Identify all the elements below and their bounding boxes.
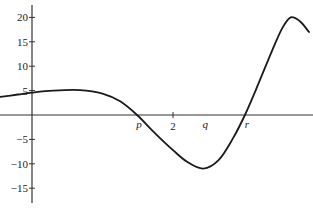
- function-curve: [0, 17, 309, 169]
- y-tick-label: 15: [17, 36, 29, 48]
- axes: [0, 5, 313, 203]
- tick-labels: 2015105−5−10−152pqr: [11, 11, 250, 194]
- annotation-q: q: [203, 118, 209, 130]
- annotation-r: r: [245, 118, 250, 130]
- function-plot: 2015105−5−10−152pqr: [0, 0, 313, 208]
- x-tick-label: 2: [170, 120, 176, 132]
- y-tick-label: −5: [16, 133, 28, 145]
- y-tick-label: −15: [11, 182, 29, 194]
- y-tick-label: 5: [23, 85, 29, 97]
- tick-marks: [29, 17, 173, 188]
- y-tick-label: −10: [11, 158, 29, 170]
- y-tick-label: 20: [17, 11, 29, 23]
- y-tick-label: 10: [17, 60, 29, 72]
